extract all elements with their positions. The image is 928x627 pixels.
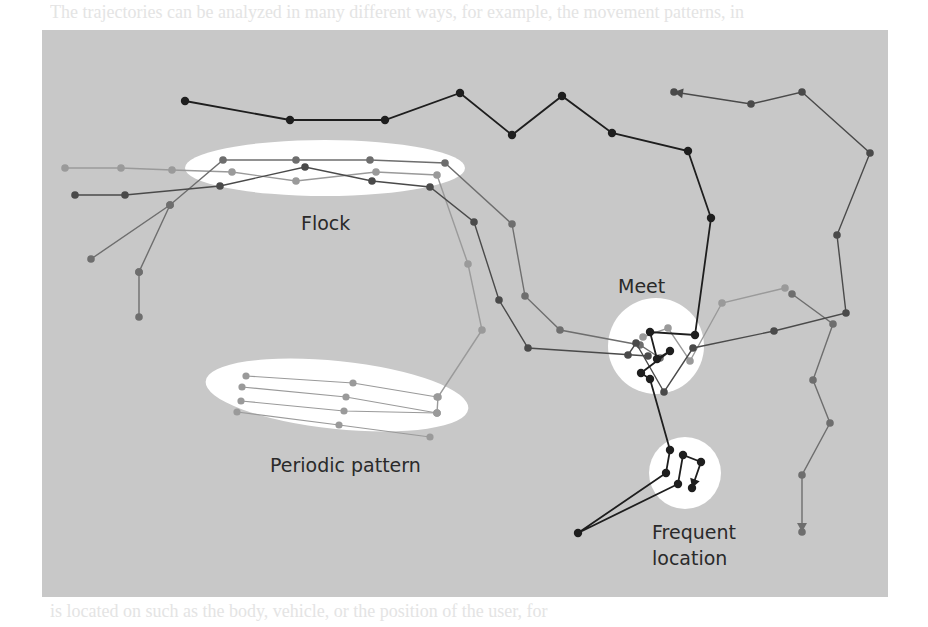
trajectory-point bbox=[71, 191, 79, 199]
trajectory-point bbox=[632, 339, 640, 347]
meet-label: Meet bbox=[618, 275, 665, 298]
trajectory-point bbox=[637, 369, 645, 377]
trajectory-line bbox=[139, 205, 170, 317]
frequent-region bbox=[649, 437, 721, 509]
periodic-pattern-label: Periodic pattern bbox=[270, 454, 421, 477]
trajectory-point bbox=[697, 458, 705, 466]
trajectory-point bbox=[121, 191, 129, 199]
trajectory-point bbox=[508, 131, 516, 139]
trajectory-point bbox=[788, 290, 796, 298]
trajectory-point bbox=[433, 393, 440, 400]
trajectory-point bbox=[478, 326, 486, 334]
trajectory-point bbox=[237, 397, 244, 404]
trajectory-point bbox=[646, 328, 654, 336]
trajectory-point bbox=[238, 383, 245, 390]
trajectory-point bbox=[809, 376, 817, 384]
trajectory-point bbox=[368, 177, 376, 185]
flock-label: Flock bbox=[301, 212, 350, 235]
trajectory-point bbox=[662, 469, 670, 477]
meet-region bbox=[608, 298, 704, 394]
trajectory-point bbox=[233, 408, 240, 415]
trajectory-point bbox=[340, 407, 347, 414]
trajectory-point bbox=[433, 171, 441, 179]
trajectory-point bbox=[829, 320, 837, 328]
trajectory-point bbox=[286, 116, 294, 124]
trajectory-point bbox=[292, 177, 300, 185]
trajectory-point bbox=[426, 183, 434, 191]
trajectory-point bbox=[608, 129, 616, 137]
trajectory-point bbox=[292, 156, 300, 164]
trajectory-point bbox=[574, 529, 582, 537]
trajectory-point bbox=[372, 168, 380, 176]
trajectory-point bbox=[689, 344, 697, 352]
trajectory-point bbox=[521, 292, 529, 300]
trajectory-point bbox=[342, 393, 349, 400]
trajectory-point bbox=[219, 156, 227, 164]
trajectory-point bbox=[866, 149, 874, 157]
trajectory-point bbox=[691, 331, 699, 339]
trajectory-point bbox=[747, 100, 755, 108]
trajectory-point bbox=[117, 164, 125, 172]
trajectory-point bbox=[842, 309, 850, 317]
trajectory-point bbox=[242, 372, 249, 379]
trajectory-point bbox=[181, 97, 189, 105]
trajectory-point bbox=[166, 201, 174, 209]
trajectory-point bbox=[301, 163, 309, 171]
trajectories bbox=[61, 88, 874, 537]
trajectory-point bbox=[464, 260, 472, 268]
frequent-location-label-line2: location bbox=[652, 547, 727, 570]
trajectory-point bbox=[666, 347, 674, 355]
frequent-location-label-line1: Frequent bbox=[652, 521, 736, 544]
trajectory-point bbox=[508, 220, 516, 228]
trajectory-point bbox=[770, 327, 778, 335]
trajectory-point bbox=[135, 313, 143, 321]
trajectory-point bbox=[168, 166, 176, 174]
trajectory-point bbox=[674, 480, 682, 488]
highlight-regions bbox=[185, 140, 721, 509]
trajectory-point bbox=[524, 344, 532, 352]
trajectory-point bbox=[679, 451, 687, 459]
trajectory-diagram bbox=[0, 0, 928, 627]
trajectory-point bbox=[826, 419, 834, 427]
trajectory-point bbox=[798, 471, 806, 479]
trajectory-point bbox=[87, 255, 95, 263]
trajectory-point bbox=[664, 324, 672, 332]
trajectory-point bbox=[644, 352, 652, 360]
trajectory-point bbox=[666, 446, 674, 454]
trajectory-point bbox=[61, 164, 69, 172]
trajectory-point bbox=[558, 92, 566, 100]
periodic-region bbox=[202, 347, 472, 442]
trajectory-point bbox=[433, 409, 440, 416]
trajectory-point bbox=[135, 268, 143, 276]
trajectory-line bbox=[792, 294, 833, 532]
trajectory-point bbox=[639, 333, 647, 341]
trajectory-point bbox=[381, 116, 389, 124]
trajectory-point bbox=[798, 88, 806, 96]
trajectory-point bbox=[470, 218, 478, 226]
trajectory-point bbox=[686, 357, 694, 365]
trajectory-point bbox=[426, 433, 433, 440]
trajectory-point bbox=[556, 326, 564, 334]
trajectory-point bbox=[707, 214, 715, 222]
trajectory-point bbox=[495, 296, 503, 304]
trajectory-point bbox=[781, 284, 789, 292]
trajectory-point bbox=[216, 182, 224, 190]
trajectory-point bbox=[660, 388, 668, 396]
trajectory-point bbox=[833, 231, 841, 239]
trajectory-point bbox=[335, 421, 342, 428]
trajectory-point bbox=[366, 156, 374, 164]
flock-region bbox=[185, 140, 465, 196]
trajectory-point bbox=[349, 379, 356, 386]
trajectory-point bbox=[441, 159, 449, 167]
trajectory-point bbox=[228, 168, 236, 176]
trajectory-point bbox=[684, 147, 692, 155]
trajectory-point bbox=[653, 355, 661, 363]
trajectory-point bbox=[456, 89, 464, 97]
trajectory-point bbox=[718, 299, 726, 307]
trajectory-point bbox=[646, 375, 654, 383]
